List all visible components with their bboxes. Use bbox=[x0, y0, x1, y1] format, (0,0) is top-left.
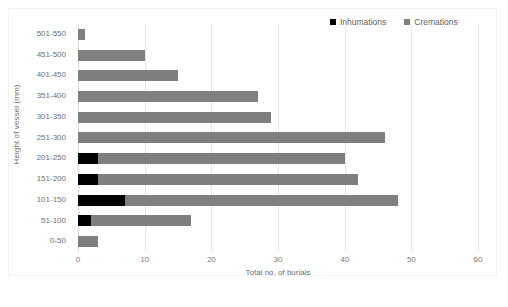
x-tick-label: 0 bbox=[76, 255, 80, 264]
bar-segment-cremations[interactable] bbox=[78, 29, 85, 40]
bar-segment-cremations[interactable] bbox=[98, 153, 345, 164]
plot-area bbox=[78, 24, 478, 252]
x-tick-label: 20 bbox=[207, 255, 216, 264]
bar-segment-inhumations[interactable] bbox=[78, 153, 98, 164]
y-axis-tick-labels: 501-550451-500401-450351-400301-350251-3… bbox=[0, 24, 74, 252]
x-tick-label: 50 bbox=[407, 255, 416, 264]
gridline-60 bbox=[478, 24, 479, 252]
x-tick-label: 10 bbox=[140, 255, 149, 264]
bar-segment-cremations[interactable] bbox=[78, 50, 145, 61]
figure-caption bbox=[0, 296, 508, 307]
y-tick-label: 401-450 bbox=[37, 65, 66, 86]
x-tick-label: 40 bbox=[340, 255, 349, 264]
figure: Inhumations Cremations Height of vessel … bbox=[0, 0, 508, 307]
bar-segment-cremations[interactable] bbox=[125, 195, 398, 206]
bar-row[interactable] bbox=[78, 45, 145, 66]
y-tick-label: 501-550 bbox=[37, 24, 66, 45]
y-tick-label: 201-250 bbox=[37, 148, 66, 169]
bar-segment-cremations[interactable] bbox=[78, 236, 98, 247]
bar-row[interactable] bbox=[78, 148, 345, 169]
y-tick-label: 101-150 bbox=[37, 190, 66, 211]
bar-row[interactable] bbox=[78, 24, 85, 45]
bar-segment-cremations[interactable] bbox=[98, 174, 358, 185]
x-tick-label: 30 bbox=[274, 255, 283, 264]
y-tick-label: 451-500 bbox=[37, 45, 66, 66]
x-tick-label: 60 bbox=[474, 255, 483, 264]
y-tick-label: 0-50 bbox=[50, 231, 66, 252]
y-tick-label: 301-350 bbox=[37, 107, 66, 128]
bar-segment-cremations[interactable] bbox=[78, 132, 385, 143]
x-axis-tick-labels: 0102030405060 bbox=[78, 255, 478, 267]
bar-row[interactable] bbox=[78, 65, 178, 86]
bar-row[interactable] bbox=[78, 128, 385, 149]
bar-row[interactable] bbox=[78, 169, 358, 190]
bar-series-group bbox=[78, 24, 478, 252]
bar-segment-inhumations[interactable] bbox=[78, 215, 91, 226]
bar-row[interactable] bbox=[78, 86, 258, 107]
bar-segment-cremations[interactable] bbox=[78, 91, 258, 102]
x-axis-title: Total no. of burials bbox=[78, 268, 478, 277]
y-tick-label: 151-200 bbox=[37, 169, 66, 190]
bar-row[interactable] bbox=[78, 231, 98, 252]
y-tick-label: 251-300 bbox=[37, 128, 66, 149]
bar-row[interactable] bbox=[78, 190, 398, 211]
bar-segment-cremations[interactable] bbox=[78, 112, 271, 123]
bar-segment-cremations[interactable] bbox=[91, 215, 191, 226]
bar-segment-inhumations[interactable] bbox=[78, 195, 125, 206]
y-tick-label: 351-400 bbox=[37, 86, 66, 107]
bar-row[interactable] bbox=[78, 211, 191, 232]
bar-row[interactable] bbox=[78, 107, 271, 128]
bar-segment-cremations[interactable] bbox=[78, 70, 178, 81]
bar-segment-inhumations[interactable] bbox=[78, 174, 98, 185]
y-tick-label: 51-100 bbox=[41, 211, 66, 232]
